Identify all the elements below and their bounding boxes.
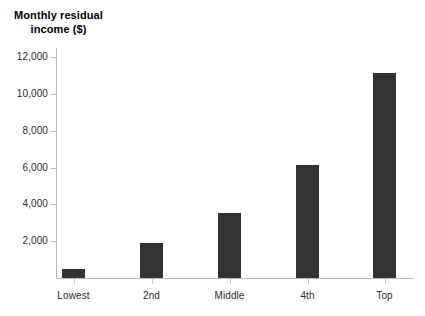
x-axis-label: Lowest xyxy=(34,290,114,301)
y-axis-tick-label: 8,000 xyxy=(22,126,48,136)
y-axis-tick xyxy=(51,94,56,95)
x-axis-tick xyxy=(152,279,153,284)
chart-screenshot: Monthly residual income ($) 2,0004,0006,… xyxy=(0,0,425,316)
y-axis-tick xyxy=(51,168,56,169)
bar xyxy=(218,213,241,278)
bar xyxy=(62,269,85,278)
y-axis-tick-label: 10,000 xyxy=(17,89,48,99)
y-axis-tick xyxy=(51,131,56,132)
x-axis-label: Top xyxy=(345,290,425,301)
x-axis-tick xyxy=(230,279,231,284)
y-axis-tick xyxy=(51,204,56,205)
y-axis-tick-label: 6,000 xyxy=(22,163,48,173)
bar xyxy=(373,73,396,278)
y-axis-tick-label: 12,000 xyxy=(17,52,48,62)
x-axis-label: 4th xyxy=(268,290,348,301)
y-axis-line xyxy=(56,48,57,279)
y-axis-tick-label: 2,000 xyxy=(22,236,48,246)
y-axis-tick-label: 4,000 xyxy=(22,199,48,209)
x-axis-tick xyxy=(74,279,75,284)
y-axis-tick xyxy=(51,241,56,242)
x-axis-line xyxy=(56,278,414,279)
bar xyxy=(296,165,319,278)
x-axis-tick xyxy=(308,279,309,284)
x-axis-label: Middle xyxy=(190,290,270,301)
y-axis-tick xyxy=(51,57,56,58)
bar xyxy=(140,243,163,278)
x-axis-label: 2nd xyxy=(112,290,192,301)
plot-area: 2,0004,0006,0008,00010,00012,000 Lowest2… xyxy=(0,0,425,316)
x-axis-tick xyxy=(385,279,386,284)
